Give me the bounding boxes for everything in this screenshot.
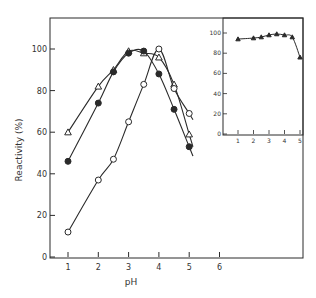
filled-triangle-marker bbox=[298, 55, 302, 59]
main-plot-frame bbox=[50, 18, 303, 258]
y-axis-label: Reactivity (%) bbox=[14, 119, 24, 182]
inset-y-tick-label: 0 bbox=[217, 130, 221, 137]
inset-x-tick-label: 5 bbox=[298, 137, 302, 144]
filled-triangle-marker bbox=[275, 32, 279, 36]
inset-y-tick-label: 20 bbox=[213, 110, 221, 117]
inset-x-tick-label: 2 bbox=[252, 137, 256, 144]
filled-circle-marker bbox=[95, 100, 101, 106]
x-tick-label: 4 bbox=[156, 263, 161, 272]
filled-circle-marker bbox=[186, 144, 192, 150]
open-triangle-marker bbox=[65, 129, 72, 135]
inset-y-tick-label: 60 bbox=[213, 69, 221, 76]
series-line bbox=[68, 50, 193, 147]
open-circle-marker bbox=[171, 86, 177, 92]
open-circle-marker bbox=[156, 46, 162, 52]
inset-x-tick-label: 1 bbox=[236, 137, 240, 144]
y-tick-label: 0 bbox=[42, 253, 47, 262]
filled-circle-marker bbox=[141, 48, 147, 54]
filled-triangle-marker bbox=[236, 37, 240, 41]
open-circle-marker bbox=[126, 119, 132, 125]
main-axes: 123456020406080100 bbox=[32, 45, 222, 272]
inset-series bbox=[236, 32, 302, 59]
open-circle-marker bbox=[65, 229, 71, 235]
open-circle-marker bbox=[141, 81, 147, 87]
open-circle-series bbox=[65, 46, 193, 235]
y-tick-label: 60 bbox=[37, 128, 47, 137]
filled-circle-marker bbox=[126, 50, 132, 56]
x-tick-label: 5 bbox=[187, 263, 192, 272]
y-tick-label: 20 bbox=[37, 211, 47, 220]
filled-triangle-marker bbox=[259, 35, 263, 39]
filled-triangle-marker bbox=[251, 36, 255, 40]
inset-y-tick-label: 100 bbox=[210, 29, 222, 36]
y-tick-label: 100 bbox=[32, 45, 47, 54]
inset-y-tick-label: 40 bbox=[213, 90, 221, 97]
series-line bbox=[68, 49, 193, 161]
open-triangle-marker bbox=[186, 131, 193, 137]
open-circle-marker bbox=[186, 110, 192, 116]
y-tick-label: 40 bbox=[37, 170, 47, 179]
inset-x-tick-label: 4 bbox=[283, 137, 287, 144]
filled-triangle-marker bbox=[282, 33, 286, 37]
open-circle-marker bbox=[95, 177, 101, 183]
filled-circle-marker bbox=[110, 69, 116, 75]
inset-y-tick-label: 80 bbox=[213, 49, 221, 56]
x-tick-label: 1 bbox=[65, 263, 70, 272]
filled-triangle-series bbox=[236, 32, 302, 59]
x-tick-label: 2 bbox=[96, 263, 101, 272]
y-tick-label: 80 bbox=[37, 87, 47, 96]
filled-circle-series bbox=[65, 48, 193, 164]
chart: 123456020406080100 12345020406080100 pH … bbox=[0, 0, 316, 298]
x-tick-label: 3 bbox=[126, 263, 131, 272]
filled-circle-marker bbox=[156, 71, 162, 77]
filled-circle-marker bbox=[65, 158, 71, 164]
filled-circle-marker bbox=[171, 106, 177, 112]
x-tick-label: 6 bbox=[217, 263, 222, 272]
series-line bbox=[68, 49, 193, 232]
x-axis-label: pH bbox=[125, 277, 137, 287]
open-circle-marker bbox=[110, 156, 116, 162]
inset-x-tick-label: 3 bbox=[267, 137, 271, 144]
main-series bbox=[65, 46, 193, 235]
filled-triangle-marker bbox=[267, 33, 271, 37]
